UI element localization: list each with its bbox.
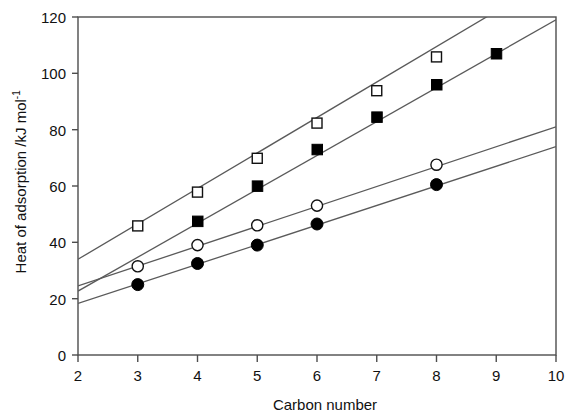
x-axis-title: Carbon number — [273, 396, 377, 413]
data-point — [311, 200, 322, 211]
x-tick-label: 5 — [253, 367, 261, 384]
data-point — [311, 218, 323, 230]
chart-figure: 120 100 80 60 40 20 0 2 3 4 5 6 7 — [0, 0, 567, 416]
data-point — [252, 220, 263, 231]
data-point — [193, 187, 203, 197]
data-point — [251, 239, 263, 251]
y-tick-label: 100 — [41, 65, 66, 82]
data-point — [431, 179, 443, 191]
data-point — [312, 118, 322, 128]
y-tick-label: 0 — [58, 347, 66, 364]
x-tick-label: 10 — [548, 367, 565, 384]
x-tick-label: 2 — [74, 367, 82, 384]
y-tick-label: 40 — [49, 234, 66, 251]
data-point — [193, 216, 204, 227]
data-point — [432, 52, 442, 62]
y-tick-label: 20 — [49, 291, 66, 308]
data-point — [132, 261, 143, 272]
y-axis-title-main: Heat of adsorption /kJ mol — [12, 99, 29, 273]
y-tick-label: 60 — [49, 178, 66, 195]
data-point — [192, 240, 203, 251]
data-point — [133, 221, 143, 231]
adsorption-scatter-plot: 120 100 80 60 40 20 0 2 3 4 5 6 7 — [0, 0, 567, 416]
x-tick-label: 4 — [193, 367, 201, 384]
x-tick-label: 7 — [373, 367, 381, 384]
data-point — [491, 49, 502, 60]
data-point — [132, 279, 144, 291]
data-point — [312, 144, 323, 155]
y-axis-title-superscript: -1 — [11, 90, 22, 99]
x-tick-label: 6 — [313, 367, 321, 384]
x-tick-label: 3 — [134, 367, 142, 384]
data-point — [432, 80, 443, 91]
data-point — [252, 181, 263, 192]
data-point — [192, 258, 204, 270]
data-point — [372, 86, 382, 96]
data-point — [431, 159, 442, 170]
y-tick-label: 80 — [49, 122, 66, 139]
y-tick-label: 120 — [41, 9, 66, 26]
data-point — [372, 112, 383, 123]
x-tick-label: 9 — [492, 367, 500, 384]
x-tick-label: 8 — [432, 367, 440, 384]
data-point — [252, 153, 262, 163]
